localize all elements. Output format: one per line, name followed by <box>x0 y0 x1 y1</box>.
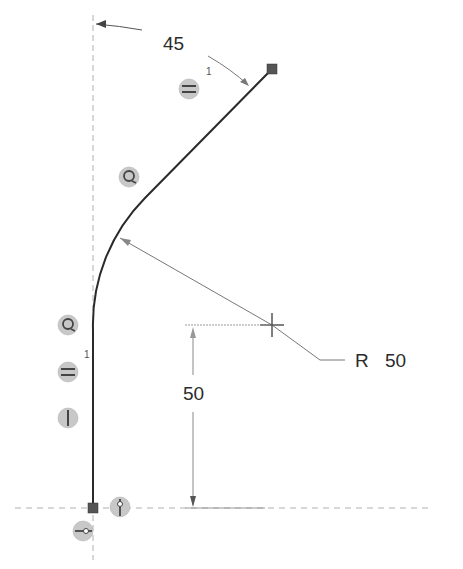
equal-constraint-index: 1 <box>84 349 90 360</box>
vertical-constraint-icon[interactable] <box>58 408 78 428</box>
tangent-constraint-icon[interactable] <box>58 315 78 335</box>
radius-dimension-prefix[interactable]: R <box>355 350 369 371</box>
start-point[interactable] <box>88 503 98 513</box>
sketch-canvas[interactable]: 45 R 50 50 1 <box>0 0 463 569</box>
coincident-vertical-constraint-icon[interactable] <box>110 497 130 517</box>
end-point[interactable] <box>267 64 277 74</box>
angle-dimension-value[interactable]: 45 <box>163 33 184 54</box>
angle-dimension[interactable]: 45 <box>96 20 249 86</box>
tangent-constraint-icon[interactable] <box>119 167 139 187</box>
equal-constraint-icon[interactable] <box>58 362 78 382</box>
equal-constraint-icon[interactable] <box>179 79 199 99</box>
radius-dimension-value[interactable]: 50 <box>385 350 406 371</box>
coincident-horizontal-constraint-icon[interactable] <box>73 521 93 541</box>
vertical-dimension-value[interactable]: 50 <box>183 383 204 404</box>
sketch-profile[interactable] <box>93 69 272 508</box>
equal-constraint-index: 1 <box>206 66 212 77</box>
radius-dimension[interactable]: R 50 <box>120 238 406 371</box>
vertical-dimension[interactable]: 50 <box>183 325 270 508</box>
